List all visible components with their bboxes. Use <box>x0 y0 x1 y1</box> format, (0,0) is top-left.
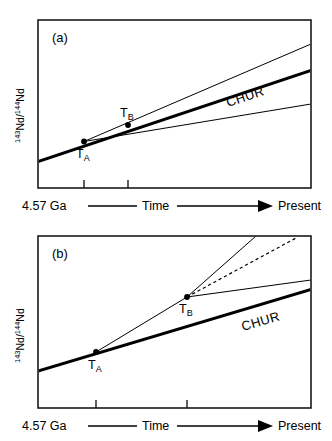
panel-b-x-end-label: Present <box>278 419 322 433</box>
panel-a-point-tb-marker <box>125 122 131 128</box>
panel-b-point-tb-marker <box>184 294 190 300</box>
panel-a-x-start-label: 4.57 Ga <box>22 199 67 213</box>
panel-a-x-end-label: Present <box>278 199 322 213</box>
panel-a-x-center-label: Time <box>142 199 169 213</box>
svg-text:143Nd/144Nd: 143Nd/144Nd <box>13 308 26 363</box>
panel-b-y-axis-label: 143Nd/144Nd <box>13 308 26 363</box>
nd-isotope-evolution-figure: 143Nd/144Nd CHUR (a) <box>0 0 332 441</box>
panel-a-x-arrowhead <box>258 200 273 212</box>
panel-b-x-arrowhead <box>258 420 273 432</box>
panel-b-x-center-label: Time <box>142 419 169 433</box>
panel-a-y-axis-label: 143Nd/144Nd <box>13 88 26 143</box>
panel-a-point-ta-marker <box>81 139 87 145</box>
panel-a: 143Nd/144Nd CHUR (a) <box>0 0 332 220</box>
panel-b-x-start-label: 4.57 Ga <box>22 419 67 433</box>
panel-a-plot-frame <box>38 20 311 188</box>
panel-b-letter: (b) <box>52 246 68 261</box>
panel-b: 143Nd/144Nd CHUR <box>0 218 332 441</box>
panel-a-letter: (a) <box>52 30 68 45</box>
panel-b-point-ta-marker <box>93 349 99 355</box>
svg-text:143Nd/144Nd: 143Nd/144Nd <box>13 88 26 143</box>
